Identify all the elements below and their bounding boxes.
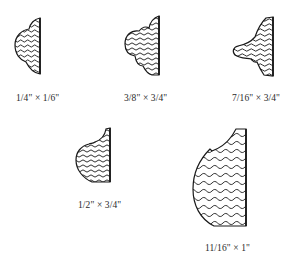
profile-2-shape	[122, 14, 164, 78]
profile-5-shape	[190, 127, 250, 229]
molding-profile-5	[190, 127, 250, 229]
molding-profile-1	[12, 16, 44, 78]
profile-3-label: 7/16" × 3/4"	[232, 93, 280, 103]
profile-3-shape	[231, 15, 277, 79]
profile-1-shape	[12, 16, 44, 78]
profile-1-label: 1/4" × 1/6"	[16, 93, 59, 103]
profile-4-shape	[73, 126, 115, 186]
profile-5-label: 11/16" × 1"	[205, 243, 250, 253]
molding-profile-2	[122, 14, 164, 78]
molding-profile-3	[231, 15, 277, 79]
profile-2-label: 3/8" × 3/4"	[124, 93, 167, 103]
profile-4-label: 1/2" × 3/4"	[78, 200, 121, 210]
molding-profile-4	[73, 126, 115, 186]
